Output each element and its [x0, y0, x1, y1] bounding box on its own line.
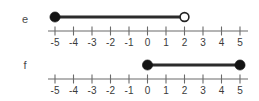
- tick-label-f-6: 1: [163, 85, 169, 96]
- tick-label-e-9: 4: [219, 37, 225, 48]
- endpoint-closed-f-start: [142, 60, 152, 70]
- tick-label-f-1: -4: [69, 85, 78, 96]
- number-line-f: f -5-4-3-2-1012345: [0, 50, 259, 100]
- tick-label-f-4: -1: [125, 85, 134, 96]
- tick-label-e-3: -2: [106, 37, 115, 48]
- tick-label-f-5: 0: [145, 85, 151, 96]
- number-line-e-graphic: -5-4-3-2-1012345: [0, 0, 259, 50]
- tick-label-f-2: -3: [88, 85, 97, 96]
- number-line-f-graphic: -5-4-3-2-1012345: [0, 50, 259, 100]
- tick-label-e-1: -4: [69, 37, 78, 48]
- tick-label-e-0: -5: [51, 37, 60, 48]
- tick-label-e-5: 0: [145, 37, 151, 48]
- endpoint-closed-f-end: [235, 60, 245, 70]
- endpoint-open-e-end: [180, 13, 189, 22]
- tick-label-group-e: -5-4-3-2-1012345: [51, 37, 244, 48]
- tick-label-f-9: 4: [219, 85, 225, 96]
- tick-label-f-8: 3: [200, 85, 206, 96]
- tick-label-f-0: -5: [51, 85, 60, 96]
- tick-label-e-4: -1: [125, 37, 134, 48]
- number-line-e: e -5-4-3-2-1012345: [0, 0, 259, 50]
- tick-label-f-7: 2: [182, 85, 188, 96]
- tick-label-f-10: 5: [237, 85, 243, 96]
- tick-label-e-2: -3: [88, 37, 97, 48]
- tick-label-group-f: -5-4-3-2-1012345: [51, 85, 244, 96]
- number-line-figure: e -5-4-3-2-1012345 f -5-4-3-2-1012345: [0, 0, 259, 101]
- tick-label-e-6: 1: [163, 37, 169, 48]
- tick-label-f-3: -2: [106, 85, 115, 96]
- tick-label-e-10: 5: [237, 37, 243, 48]
- tick-label-e-7: 2: [182, 37, 188, 48]
- endpoint-closed-e-start: [50, 12, 60, 22]
- tick-label-e-8: 3: [200, 37, 206, 48]
